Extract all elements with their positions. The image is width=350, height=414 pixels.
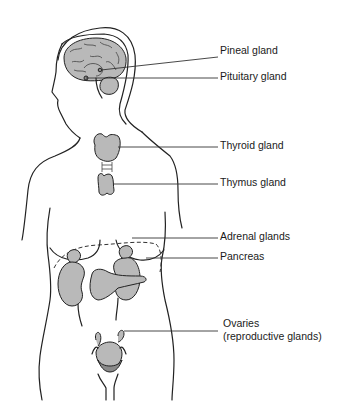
left-adrenal: [67, 250, 80, 263]
label-pituitary-gland: Pituitary gland: [220, 70, 287, 83]
left-ovary: [95, 332, 100, 346]
label-thyroid-gland: Thyroid gland: [220, 139, 284, 152]
right-ovary: [118, 330, 124, 342]
thymus-gland: [98, 174, 114, 196]
label-thymus-gland: Thymus gland: [220, 176, 286, 189]
label-ovaries: Ovaries: [223, 317, 259, 330]
left-torso: [39, 208, 51, 400]
label-pineal-gland: Pineal gland: [220, 44, 278, 57]
left-kidney: [58, 262, 84, 306]
right-adrenal: [119, 246, 132, 259]
body-illustration: [0, 0, 350, 414]
label-ovaries-subtext: (reproductive glands): [223, 330, 322, 343]
label-adrenal-glands: Adrenal glands: [220, 230, 290, 243]
label-pancreas: Pancreas: [220, 250, 264, 263]
thyroid-gland: [94, 134, 120, 172]
left-shoulder: [22, 138, 80, 240]
endocrine-system-diagram: Pineal gland Pituitary gland Thyroid gla…: [0, 0, 350, 414]
uterus-ovaries: [92, 330, 126, 372]
inner-thigh-left: [98, 374, 106, 400]
right-shoulder: [142, 132, 182, 228]
right-torso: [161, 212, 174, 400]
inner-thigh-right: [114, 374, 118, 400]
